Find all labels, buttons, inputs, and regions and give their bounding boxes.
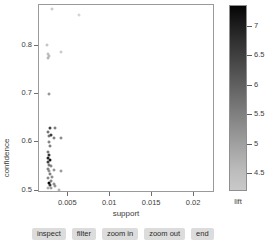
data-point xyxy=(54,127,57,130)
colorbar-tick-label: 5 xyxy=(254,140,258,148)
plot-action-buttons: inspectfilterzoom inzoom outend xyxy=(32,228,214,240)
data-point xyxy=(50,7,53,10)
colorbar-tick-mark xyxy=(247,144,252,145)
data-point xyxy=(48,141,51,144)
y-tick-mark xyxy=(34,190,38,191)
button-end[interactable]: end xyxy=(191,228,214,241)
data-point xyxy=(49,165,52,168)
data-point xyxy=(51,176,54,179)
data-point xyxy=(48,93,51,96)
colorbar-tick-mark xyxy=(247,85,252,86)
data-point xyxy=(49,133,52,136)
x-axis-title: support xyxy=(38,209,214,218)
button-filter[interactable]: filter xyxy=(72,228,96,241)
colorbar-tick-label: 6.5 xyxy=(254,51,264,59)
scatter-plot-panel[interactable] xyxy=(38,4,214,192)
y-tick-label: 0.5 xyxy=(22,186,32,194)
data-point xyxy=(46,187,49,190)
data-point xyxy=(46,43,49,46)
data-point xyxy=(52,169,55,172)
colorbar-tick-mark xyxy=(247,26,252,27)
data-point xyxy=(49,184,52,187)
x-tick-mark xyxy=(151,192,152,196)
data-point xyxy=(49,126,52,129)
data-point xyxy=(47,57,50,60)
y-tick-mark xyxy=(34,141,38,142)
y-axis-title: confidence xyxy=(2,139,11,178)
colorbar-tick-mark xyxy=(247,173,252,174)
x-tick-mark xyxy=(67,192,68,196)
data-point xyxy=(60,51,63,54)
colorbar-tick-mark xyxy=(247,55,252,56)
colorbar-tick-label: 7 xyxy=(254,22,258,30)
x-tick-label: 0.015 xyxy=(142,199,161,207)
data-point xyxy=(60,170,63,173)
x-tick-mark xyxy=(193,192,194,196)
y-tick-label: 0.6 xyxy=(22,138,32,146)
x-tick-label: 0.02 xyxy=(186,199,201,207)
data-point xyxy=(53,136,56,139)
data-points-layer xyxy=(38,4,214,192)
data-point xyxy=(78,14,81,17)
colorbar-tick-label: 5.5 xyxy=(254,110,264,118)
x-tick-label: 0.01 xyxy=(102,199,117,207)
colorbar-title: lift xyxy=(229,197,247,206)
colorbar-tick-label: 4.5 xyxy=(254,169,264,177)
button-zoom-out[interactable]: zoom out xyxy=(144,228,185,241)
lift-colorbar-legend: lift 4.555.566.57 xyxy=(229,5,275,215)
x-tick-label: 0.005 xyxy=(58,199,77,207)
data-point xyxy=(57,188,60,191)
y-tick-mark xyxy=(34,45,38,46)
colorbar-gradient xyxy=(229,5,247,191)
data-point xyxy=(60,137,63,140)
y-tick-label: 0.7 xyxy=(22,89,32,97)
data-point xyxy=(53,184,56,187)
y-tick-mark xyxy=(34,93,38,94)
colorbar-tick-label: 6 xyxy=(254,81,258,89)
button-zoom-in[interactable]: zoom in xyxy=(102,228,138,241)
colorbar-tick-mark xyxy=(247,114,252,115)
y-axis-title-wrap: confidence xyxy=(5,60,15,130)
x-tick-mark xyxy=(109,192,110,196)
y-tick-label: 0.8 xyxy=(22,41,32,49)
data-point xyxy=(48,145,51,148)
button-inspect[interactable]: inspect xyxy=(32,228,66,241)
